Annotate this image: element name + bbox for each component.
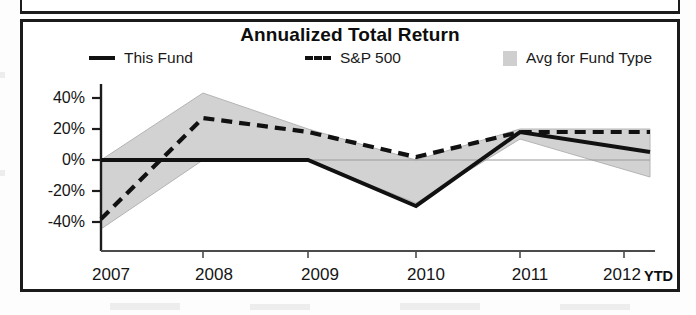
scan-artifact-6 — [0, 170, 5, 176]
scan-artifact-4 — [560, 304, 630, 310]
x-axis-label-2011: 2011 — [490, 265, 570, 285]
y-axis-label-neg20: -20% — [23, 182, 85, 200]
scanned-chart-page: Annualized Total Return This Fund S&P 50… — [0, 0, 696, 315]
plot-area: 40% 20% 0% -20% -40% 2007 2008 2009 2010… — [23, 22, 683, 295]
y-axis-label-neg40: -40% — [23, 213, 85, 231]
scan-artifact-2 — [250, 304, 310, 310]
y-axis-label-40: 40% — [23, 89, 85, 107]
page-box-above-remnant — [20, 0, 680, 14]
x-axis-unit-label-ytd: YTD — [644, 268, 673, 284]
scan-artifact-1 — [110, 303, 180, 310]
x-axis-label-2008: 2008 — [174, 265, 254, 285]
scan-artifact-5 — [0, 72, 5, 78]
x-axis-label-2009: 2009 — [280, 265, 360, 285]
scan-artifact-3 — [400, 303, 480, 310]
y-axis-label-20: 20% — [23, 120, 85, 138]
x-axis-label-2007: 2007 — [71, 265, 151, 285]
chart-canvas — [23, 22, 683, 295]
x-axis-label-2010: 2010 — [386, 265, 466, 285]
annualized-total-return-chart: Annualized Total Return This Fund S&P 50… — [20, 19, 680, 292]
y-axis-label-0: 0% — [23, 151, 85, 169]
